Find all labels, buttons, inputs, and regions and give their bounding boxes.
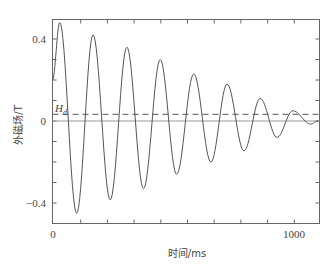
field-curve (53, 23, 319, 214)
damped-oscillation-chart: Hd 0.4 0 −0.4 0 1000 时间/ms 外磁场/T (0, 0, 331, 264)
x-axis-label: 时间/ms (168, 247, 206, 259)
hd-label-sub: d (63, 108, 68, 117)
y-tick-neg-0.4: −0.4 (26, 197, 46, 209)
y-axis-label: 外磁场/T (12, 104, 24, 144)
x-tick-1000: 1000 (283, 228, 306, 240)
x-tick-0: 0 (50, 228, 56, 240)
y-tick-0.4: 0.4 (32, 33, 46, 45)
y-tick-0: 0 (41, 115, 47, 127)
